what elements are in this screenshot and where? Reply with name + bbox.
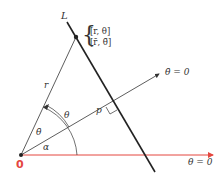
diagram-svg (0, 0, 223, 181)
line-label: L (61, 11, 68, 21)
origin-point (19, 153, 23, 157)
polar-axis-label: θ = 0 (188, 158, 212, 167)
alpha-label: α (43, 143, 49, 152)
diagram-canvas: L { [r, θ] [r̄, θ̄] θ̄ = 0 θ = 0 r p θ θ… (0, 0, 223, 181)
theta-label: θ (64, 111, 69, 120)
theta-bar-label: θ̄ (36, 128, 41, 137)
coords-rbar-thetabar: [r̄, θ̄] (90, 37, 111, 48)
radius-segment (21, 37, 76, 155)
origin-label: 0 (16, 159, 24, 170)
distance-label: p (96, 106, 102, 115)
rotated-axis-label: θ̄ = 0 (165, 68, 189, 77)
coords-r-theta: [r, θ] (90, 26, 111, 37)
right-angle-mark (106, 107, 117, 114)
point-on-line (74, 35, 78, 39)
point-coordinates: [r, θ] [r̄, θ̄] (90, 26, 111, 49)
radius-label: r (44, 81, 48, 90)
